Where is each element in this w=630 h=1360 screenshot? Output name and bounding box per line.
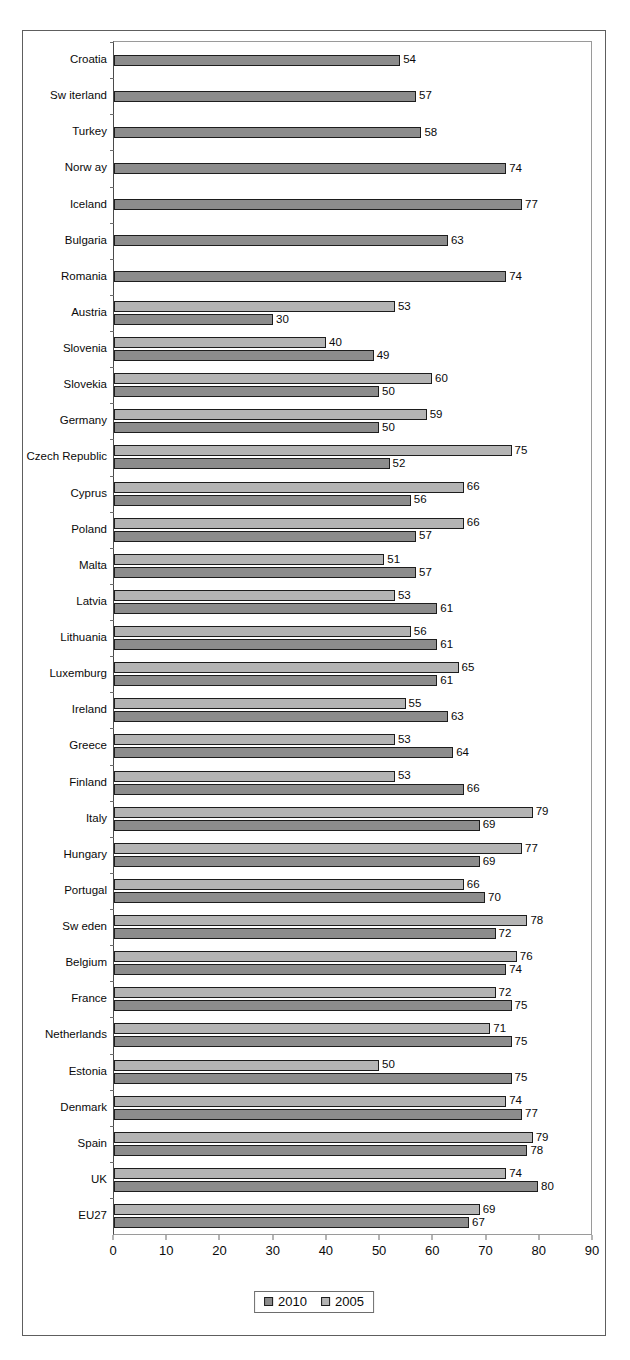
bar-fill-2005 [114, 1096, 506, 1107]
bar-fill-2010 [114, 639, 437, 650]
category-tick [110, 1017, 114, 1018]
bar-value-label: 56 [414, 626, 427, 638]
bar-value-label: 66 [467, 879, 480, 891]
bar-2010: 57 [114, 531, 591, 542]
category-label: Spain [78, 1138, 107, 1150]
bar-value-label: 65 [462, 662, 475, 674]
value-axis-tick [538, 1235, 539, 1240]
bar-fill-2005 [114, 698, 406, 709]
bar-row: Romania74 [114, 259, 591, 295]
value-axis-tick [485, 1235, 486, 1240]
legend-swatch-icon [264, 1297, 273, 1306]
bar-row: Norw ay74 [114, 150, 591, 186]
chart-legend: 20102005 [254, 1291, 374, 1313]
bar-row: Portugal6670 [114, 873, 591, 909]
bar-2005: 65 [114, 662, 591, 673]
bar-value-label: 72 [499, 928, 512, 940]
bar-value-label: 54 [403, 54, 416, 66]
bar-2010: 80 [114, 1181, 591, 1192]
bar-row: Slovenia4049 [114, 331, 591, 367]
value-axis-tick [166, 1235, 167, 1240]
category-tick [110, 620, 114, 621]
bar-row: EU276967 [114, 1198, 591, 1234]
bar-2010: 58 [114, 127, 591, 138]
bar-fill-2010 [114, 55, 400, 66]
value-axis-label: 40 [319, 1243, 333, 1258]
bar-row: Slovekia6050 [114, 367, 591, 403]
bar-fill-2010 [114, 928, 496, 939]
bar-value-label: 70 [488, 892, 501, 904]
bar-fill-2010 [114, 271, 506, 282]
bar-fill-2005 [114, 843, 522, 854]
bar-fill-2005 [114, 987, 496, 998]
bar-2005: 55 [114, 698, 591, 709]
bar-2005: 53 [114, 301, 591, 312]
category-label: Greece [69, 741, 107, 753]
category-tick [110, 945, 114, 946]
bar-2010: 54 [114, 55, 591, 66]
bar-fill-2010 [114, 531, 416, 542]
category-tick [110, 367, 114, 368]
bar-fill-2010 [114, 603, 437, 614]
bar-fill-2005 [114, 626, 411, 637]
bar-2005: 76 [114, 951, 591, 962]
bar-value-label: 67 [472, 1217, 485, 1229]
legend-item-2005[interactable]: 2005 [321, 1295, 364, 1308]
bar-2010: 74 [114, 964, 591, 975]
bar-fill-2005 [114, 1204, 480, 1215]
category-label: Austria [71, 307, 107, 319]
bar-value-label: 71 [493, 1023, 506, 1035]
bar-value-label: 69 [483, 1204, 496, 1216]
bar-row: Belgium7674 [114, 945, 591, 981]
bar-2005: 75 [114, 445, 591, 456]
bar-value-label: 58 [424, 127, 437, 139]
category-tick [110, 1162, 114, 1163]
bar-fill-2010 [114, 1000, 512, 1011]
bar-value-label: 50 [382, 386, 395, 398]
value-axis-tick [592, 1235, 593, 1240]
bar-value-label: 77 [525, 199, 538, 211]
bar-2010: 52 [114, 458, 591, 469]
plot-area: Croatia54Sw iterland57Turkey58Norw ay74I… [113, 41, 592, 1235]
bar-2005: 59 [114, 409, 591, 420]
bar-value-label: 51 [387, 554, 400, 566]
category-label: Belgium [65, 957, 107, 969]
bar-2010: 61 [114, 639, 591, 650]
bar-value-label: 53 [398, 770, 411, 782]
bar-2005: 72 [114, 987, 591, 998]
bar-fill-2005 [114, 915, 527, 926]
bar-fill-2010 [114, 1181, 538, 1192]
bar-fill-2010 [114, 856, 480, 867]
bar-2010: 50 [114, 422, 591, 433]
bar-fill-2010 [114, 675, 437, 686]
bar-value-label: 66 [467, 517, 480, 529]
bar-value-label: 49 [377, 350, 390, 362]
category-label: Germany [60, 416, 107, 428]
category-label: Croatia [70, 54, 107, 66]
chart-frame: Croatia54Sw iterland57Turkey58Norw ay74I… [22, 30, 606, 1336]
bar-2010: 77 [114, 199, 591, 210]
bar-fill-2005 [114, 951, 517, 962]
category-tick [110, 476, 114, 477]
category-tick [110, 78, 114, 79]
bar-row: Croatia54 [114, 42, 591, 78]
bar-2005: 79 [114, 807, 591, 818]
legend-swatch-icon [321, 1297, 330, 1306]
bar-value-label: 78 [530, 1145, 543, 1157]
category-tick [110, 150, 114, 151]
bar-fill-2005 [114, 807, 533, 818]
value-axis-label: 30 [265, 1243, 279, 1258]
bar-fill-2010 [114, 1109, 522, 1120]
bar-row: Bulgaria63 [114, 223, 591, 259]
category-tick [110, 548, 114, 549]
bar-2010: 72 [114, 928, 591, 939]
bar-value-label: 78 [530, 915, 543, 927]
bar-row: Sw eden7872 [114, 909, 591, 945]
category-label: Latvia [76, 596, 107, 608]
category-label: Sw iterland [50, 90, 107, 102]
bar-fill-2005 [114, 1132, 533, 1143]
category-label: Slovekia [64, 379, 107, 391]
bar-value-label: 61 [440, 675, 453, 687]
legend-item-2010[interactable]: 2010 [264, 1295, 307, 1308]
category-label: Bulgaria [65, 235, 107, 247]
